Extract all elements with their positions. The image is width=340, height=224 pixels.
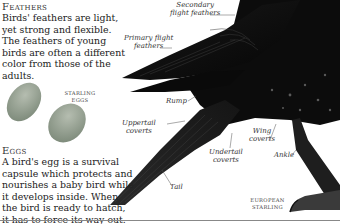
bottom-divider [0, 220, 340, 221]
label-secondary-line1: Secondary [170, 1, 220, 9]
caption-line1: European [245, 197, 290, 204]
label-primary-flight-feathers: Primary flight feathers [124, 34, 173, 50]
label-uppertail-coverts: Uppertail coverts [122, 119, 156, 135]
egg-2 [40, 96, 93, 150]
label-tail: Tail [170, 183, 183, 191]
caption-line2: starling [245, 204, 290, 211]
label-wing-line1: Wing [249, 127, 275, 135]
label-primary-line2: feathers [124, 42, 173, 50]
feathers-heading: Feathers [2, 1, 47, 12]
label-wing-line2: coverts [249, 135, 275, 143]
eggs-text: A bird's egg is a survival capsule which… [2, 156, 134, 224]
label-undertail-coverts: Undertail coverts [209, 148, 243, 164]
label-undertail-line1: Undertail [209, 148, 243, 156]
label-uppertail-line1: Uppertail [122, 119, 156, 127]
label-primary-line1: Primary flight [124, 34, 173, 42]
eggs-caption: Starling eggs [60, 90, 100, 103]
feathers-text: Birds' feathers are light, yet strong an… [2, 12, 128, 82]
label-ankle: Ankle [274, 151, 294, 159]
label-uppertail-line2: coverts [122, 127, 156, 135]
label-wing-coverts: Wing coverts [249, 127, 275, 143]
label-secondary-line2: flight feathers [170, 9, 220, 17]
eggs-caption-line2: eggs [60, 97, 100, 104]
label-undertail-line2: coverts [209, 156, 243, 164]
eggs-heading: Eggs [2, 145, 26, 156]
european-starling-caption: European starling [245, 197, 290, 210]
label-secondary-flight-feathers: Secondary flight feathers [170, 1, 220, 17]
label-rump: Rump [166, 97, 187, 105]
eggs-caption-line1: Starling [60, 90, 100, 97]
egg-1 [0, 80, 48, 128]
